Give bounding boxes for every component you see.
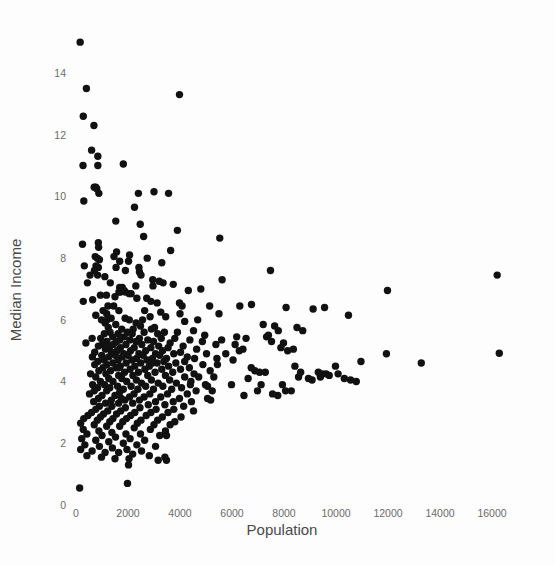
y-tick-label: 8 — [60, 252, 66, 264]
data-point — [257, 381, 264, 388]
data-point — [127, 383, 134, 390]
x-tick-label: 6000 — [220, 507, 244, 519]
data-point — [142, 383, 149, 390]
data-point — [332, 362, 339, 369]
data-point — [178, 302, 185, 309]
data-point — [111, 455, 118, 462]
data-point — [199, 338, 206, 345]
data-point — [92, 312, 99, 319]
data-point — [137, 430, 144, 437]
data-point — [275, 327, 282, 334]
data-point — [242, 335, 249, 342]
data-point — [163, 457, 170, 464]
data-point — [172, 359, 179, 366]
data-point — [158, 366, 165, 373]
data-point — [149, 282, 156, 289]
data-point — [94, 271, 101, 278]
data-point — [89, 296, 96, 303]
data-point — [110, 253, 117, 260]
data-point — [86, 390, 93, 397]
y-tick-label: 10 — [54, 190, 66, 202]
data-point — [210, 373, 217, 380]
data-point — [194, 316, 201, 323]
data-point — [126, 251, 133, 258]
y-tick-label: 0 — [60, 499, 66, 511]
data-point — [184, 390, 191, 397]
data-point — [240, 392, 247, 399]
data-point — [95, 244, 102, 251]
data-point — [140, 329, 147, 336]
data-point — [177, 366, 184, 373]
data-point — [148, 376, 155, 383]
data-point — [80, 298, 87, 305]
data-point — [204, 383, 211, 390]
data-point — [94, 153, 101, 160]
data-point — [213, 355, 220, 362]
data-point — [159, 383, 166, 390]
data-point — [140, 233, 147, 240]
data-point — [170, 398, 177, 405]
data-point — [193, 345, 200, 352]
data-point — [132, 282, 139, 289]
data-point — [95, 342, 102, 349]
data-point — [136, 396, 143, 403]
data-point — [321, 304, 328, 311]
data-point — [152, 443, 159, 450]
data-point — [231, 341, 238, 348]
data-point — [165, 190, 172, 197]
data-point — [248, 301, 255, 308]
data-point — [384, 287, 391, 294]
data-point — [185, 287, 192, 294]
data-point — [115, 449, 122, 456]
data-point — [138, 341, 145, 348]
data-point — [341, 375, 348, 382]
x-tick-label: 12000 — [373, 507, 402, 519]
data-point — [186, 336, 193, 343]
data-point — [147, 298, 154, 305]
x-tick-label: 14000 — [425, 507, 454, 519]
scatter-plot-figure: 0200040006000800010000120001400016000 02… — [0, 0, 555, 565]
data-point — [215, 310, 222, 317]
data-point — [206, 302, 213, 309]
data-point — [233, 333, 240, 340]
data-point — [109, 444, 116, 451]
data-point — [94, 162, 101, 169]
data-point — [170, 350, 177, 357]
data-point — [112, 264, 119, 271]
data-point — [122, 267, 129, 274]
data-point — [80, 113, 87, 120]
data-point — [262, 369, 269, 376]
data-point — [228, 381, 235, 388]
data-point — [186, 364, 193, 371]
data-point — [98, 453, 105, 460]
data-point — [156, 352, 163, 359]
y-tick-label: 2 — [60, 437, 66, 449]
data-point — [131, 424, 138, 431]
x-axis-title: Population — [247, 521, 318, 538]
data-point — [111, 293, 118, 300]
data-point — [147, 426, 154, 433]
data-point — [181, 318, 188, 325]
data-point — [206, 367, 213, 374]
data-point — [218, 276, 225, 283]
data-point — [177, 349, 184, 356]
data-point — [181, 358, 188, 365]
data-point — [174, 329, 181, 336]
data-point — [154, 457, 161, 464]
data-point — [84, 279, 91, 286]
data-point — [120, 440, 127, 447]
figure-background — [0, 0, 555, 565]
data-point — [164, 409, 171, 416]
data-point — [494, 271, 501, 278]
data-point — [88, 146, 95, 153]
data-point — [80, 197, 87, 204]
data-point — [137, 271, 144, 278]
data-point — [290, 345, 297, 352]
data-point — [107, 279, 114, 286]
data-point — [103, 291, 110, 298]
data-point — [216, 234, 223, 241]
data-point — [308, 376, 315, 383]
data-point — [82, 339, 89, 346]
data-point — [133, 295, 140, 302]
y-tick-label: 12 — [54, 129, 66, 141]
